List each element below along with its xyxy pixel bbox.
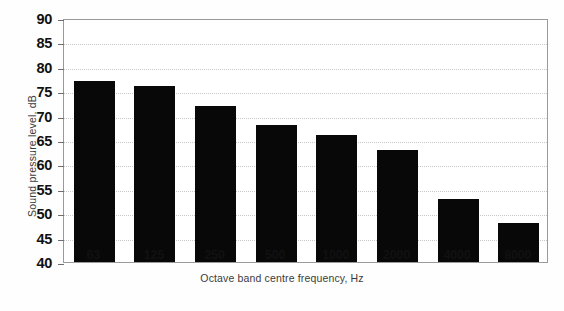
bar (377, 150, 418, 262)
y-axis-tick (58, 20, 64, 21)
y-axis-tick (58, 44, 64, 45)
y-axis-tick (58, 69, 64, 70)
plot-area: 9085807570656055504540 (63, 19, 548, 263)
y-axis-tick (58, 118, 64, 119)
y-axis-tick-label: 80 (4, 60, 52, 76)
y-axis-tick-label: 50 (4, 206, 52, 222)
x-axis-tick-label: 63 (63, 248, 124, 262)
x-axis-tick-label: 1000 (306, 248, 367, 262)
x-axis-tick-label: 2000 (366, 248, 427, 262)
y-axis-tick (58, 93, 64, 94)
bar (134, 86, 175, 262)
x-axis-tick-label: 125 (124, 248, 185, 262)
x-axis-tick-label: 250 (184, 248, 245, 262)
y-axis-tick (58, 240, 64, 241)
y-axis-tick-label: 70 (4, 109, 52, 125)
y-axis-tick (58, 191, 64, 192)
plot-inner: 9085807570656055504540 (64, 20, 547, 262)
y-axis-tick-label: 60 (4, 157, 52, 173)
y-axis-tick-label: 55 (4, 182, 52, 198)
y-axis-tick-label: 45 (4, 231, 52, 247)
x-axis-tick-label: 4000 (427, 248, 488, 262)
chart-figure: Sound pressure level, dB 908580757065605… (0, 0, 564, 311)
y-axis-tick-label: 75 (4, 84, 52, 100)
bar (316, 135, 357, 262)
gridline (64, 44, 547, 45)
x-axis-tick-label: 500 (245, 248, 306, 262)
y-axis-tick (58, 264, 64, 265)
x-axis-tick-label: 8000 (487, 248, 548, 262)
y-axis-tick-label: 85 (4, 35, 52, 51)
bar (195, 106, 236, 262)
y-axis-tick-label: 65 (4, 133, 52, 149)
bar (74, 81, 115, 262)
gridline (64, 69, 547, 70)
y-axis-tick (58, 215, 64, 216)
y-axis-tick-label: 90 (4, 11, 52, 27)
y-axis-tick (58, 166, 64, 167)
x-axis-title: Octave band centre frequency, Hz (0, 272, 564, 284)
y-axis-tick (58, 142, 64, 143)
y-axis-tick-label: 40 (4, 255, 52, 271)
bar (256, 125, 297, 262)
